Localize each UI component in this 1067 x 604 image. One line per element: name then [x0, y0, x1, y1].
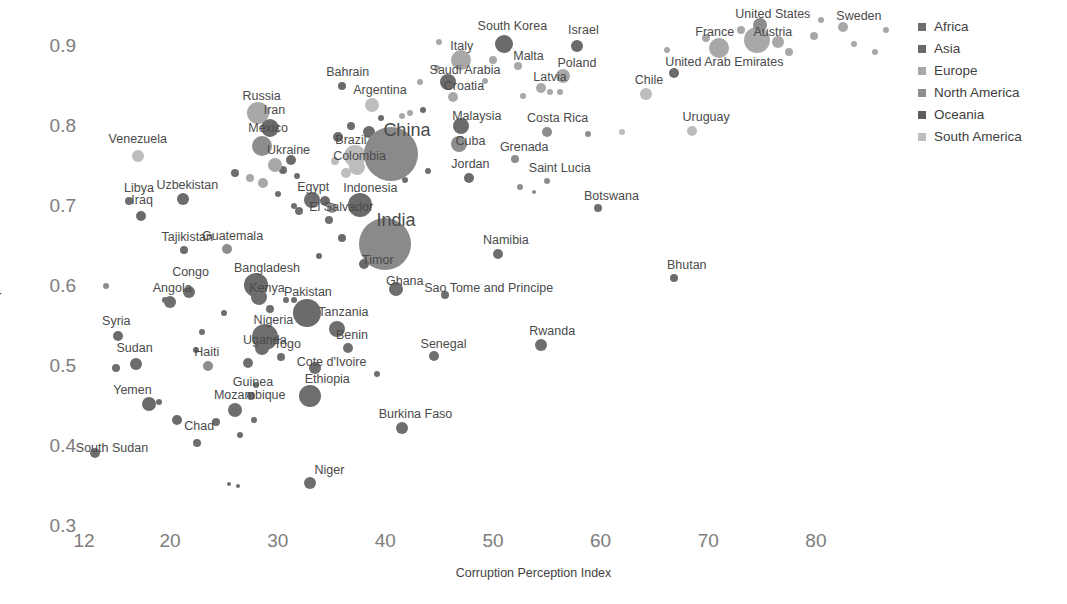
point-label: Grenada — [500, 141, 549, 154]
data-point-bahrain[interactable] — [338, 82, 346, 90]
data-point-uzbekistan[interactable] — [177, 193, 189, 205]
data-point — [425, 168, 431, 174]
data-point-chile[interactable] — [640, 88, 652, 100]
data-point-malta[interactable] — [514, 62, 522, 70]
legend-item-europe[interactable]: Europe — [918, 60, 1058, 82]
data-point — [246, 174, 254, 182]
data-point-niger[interactable] — [304, 477, 316, 489]
data-point — [436, 39, 442, 45]
data-point — [520, 93, 526, 99]
data-point-colombia[interactable] — [349, 159, 365, 175]
data-point-iraq[interactable] — [136, 211, 146, 221]
y-axis-title: Human Development Index — [0, 192, 1, 412]
data-point-tanzania[interactable] — [329, 321, 345, 337]
legend-item-north-america[interactable]: North America — [918, 82, 1058, 104]
data-point-argentina[interactable] — [365, 98, 379, 112]
data-point-sweden[interactable] — [838, 22, 848, 32]
data-point-tajikistan[interactable] — [180, 246, 188, 254]
point-label: Malta — [513, 50, 544, 63]
legend-item-asia[interactable]: Asia — [918, 38, 1058, 60]
data-point-burkina-faso[interactable] — [396, 422, 408, 434]
data-point-united-states[interactable] — [753, 18, 767, 32]
data-point-cuba[interactable] — [451, 136, 467, 152]
x-tick-label: 80 — [805, 530, 826, 552]
data-point-guinea[interactable] — [247, 392, 255, 400]
data-point-sudan[interactable] — [130, 358, 142, 370]
data-point-indonesia[interactable] — [348, 193, 372, 217]
data-point-italy[interactable] — [451, 50, 471, 70]
point-label: Indonesia — [343, 182, 397, 195]
data-point — [557, 89, 563, 95]
data-point-bhutan[interactable] — [670, 274, 678, 282]
point-label: Tajikistan — [162, 231, 213, 244]
data-point-rwanda[interactable] — [535, 339, 547, 351]
data-point — [193, 347, 199, 353]
data-point-ukraine[interactable] — [268, 158, 282, 172]
data-point-france[interactable] — [709, 38, 729, 58]
data-point-kenya[interactable] — [251, 289, 267, 305]
data-point-benin[interactable] — [343, 343, 353, 353]
data-point-guatemala[interactable] — [222, 244, 232, 254]
data-point — [231, 169, 239, 177]
data-point-congo[interactable] — [183, 286, 195, 298]
legend-label: South America — [934, 130, 1022, 144]
data-point-botswana[interactable] — [594, 204, 602, 212]
data-point-angola[interactable] — [164, 296, 176, 308]
data-point-ethiopia[interactable] — [299, 385, 321, 407]
legend-item-oceania[interactable]: Oceania — [918, 104, 1058, 126]
data-point-senegal[interactable] — [429, 351, 439, 361]
data-point-israel[interactable] — [571, 40, 583, 52]
data-point-uruguay[interactable] — [687, 126, 697, 136]
point-label: Guatemala — [202, 229, 263, 242]
data-point-croatia[interactable] — [448, 92, 458, 102]
data-point-jordan[interactable] — [464, 173, 474, 183]
data-point-namibia[interactable] — [493, 249, 503, 259]
data-point-south-korea[interactable] — [495, 35, 513, 53]
legend-item-south-america[interactable]: South America — [918, 126, 1058, 148]
legend-swatch-icon — [918, 111, 926, 119]
data-point-venezuela[interactable] — [132, 150, 144, 162]
data-point-cote-d-ivoire[interactable] — [309, 362, 321, 374]
data-point-libya[interactable] — [125, 197, 133, 205]
data-point-united-arab-emirates[interactable] — [669, 68, 679, 78]
data-point-mozambique[interactable] — [228, 403, 242, 417]
data-point-egypt[interactable] — [304, 192, 320, 208]
data-point-pakistan[interactable] — [293, 299, 321, 327]
x-tick-label: 40 — [375, 530, 396, 552]
data-point — [619, 129, 625, 135]
data-point — [702, 34, 710, 42]
data-point-timor[interactable] — [359, 259, 369, 269]
point-label: Egypt — [297, 181, 329, 194]
data-point-costa-rica[interactable] — [542, 127, 552, 137]
data-point-china[interactable] — [364, 127, 418, 181]
data-point-ghana[interactable] — [389, 282, 403, 296]
point-label: Togo — [274, 338, 301, 351]
point-label: Senegal — [421, 337, 467, 350]
data-point-saint-lucia[interactable] — [544, 178, 550, 184]
data-point-el-salvador[interactable] — [327, 203, 337, 213]
legend-label: Asia — [934, 42, 960, 56]
data-point-mexico[interactable] — [252, 136, 272, 156]
data-point-syria[interactable] — [113, 331, 123, 341]
data-point — [251, 417, 257, 423]
data-point-latvia[interactable] — [536, 83, 546, 93]
data-point-iran[interactable] — [261, 119, 279, 137]
data-point-yemen[interactable] — [142, 397, 156, 411]
data-point-chad[interactable] — [193, 439, 201, 447]
data-point-togo[interactable] — [277, 353, 285, 361]
data-point-saudi-arabia[interactable] — [440, 74, 456, 90]
legend-swatch-icon — [918, 67, 926, 75]
data-point-sao-tome-and-principe[interactable] — [441, 291, 449, 299]
data-point-south-sudan[interactable] — [90, 448, 100, 458]
data-point-malaysia[interactable] — [453, 118, 469, 134]
data-point-uganda[interactable] — [255, 341, 269, 355]
data-point-haiti[interactable] — [203, 361, 213, 371]
point-label: Sudan — [117, 342, 153, 355]
data-point-poland[interactable] — [556, 69, 570, 83]
legend-item-africa[interactable]: Africa — [918, 16, 1058, 38]
y-tick-label: 0.3 — [50, 515, 76, 537]
data-point — [227, 482, 231, 486]
data-point — [286, 155, 296, 165]
point-label: United States — [735, 8, 810, 21]
data-point-grenada[interactable] — [511, 155, 519, 163]
